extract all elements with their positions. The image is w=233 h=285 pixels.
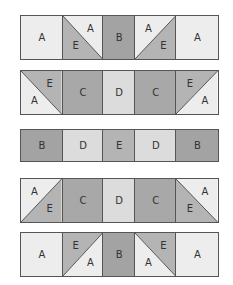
patch-B: B: [21, 130, 63, 161]
patch-label: C: [80, 196, 87, 206]
quilt-row-5: AEABEAA: [20, 232, 219, 277]
patch-label: D: [152, 141, 160, 151]
patch-A: A: [176, 16, 218, 59]
patch-label: C: [152, 88, 159, 98]
patch-label: E: [73, 41, 79, 51]
patch-D: D: [103, 179, 135, 222]
patch-label: D: [115, 88, 123, 98]
patch-A: A: [21, 16, 63, 59]
patch-label: E: [160, 41, 166, 51]
patch-label: B: [39, 141, 46, 151]
half-square-triangle-patch: AE: [63, 16, 104, 59]
half-square-triangle-patch: EA: [21, 71, 63, 114]
patch-label: A: [145, 24, 152, 34]
half-square-triangle-patch: AE: [176, 179, 218, 222]
patch-label: A: [31, 96, 38, 106]
patch-label: A: [202, 187, 209, 197]
patch-label: B: [116, 250, 123, 260]
patch-label: E: [160, 241, 166, 251]
patch-label: E: [187, 204, 193, 214]
half-square-triangle-patch: EA: [176, 71, 218, 114]
patch-label: C: [80, 88, 87, 98]
patch-C: C: [135, 179, 177, 222]
patch-label: D: [115, 196, 123, 206]
patch-label: B: [116, 33, 123, 43]
patch-B: B: [103, 233, 135, 276]
patch-B: B: [176, 130, 218, 161]
patch-label: A: [145, 258, 152, 268]
half-square-triangle-patch: EA: [63, 233, 104, 276]
patch-label: A: [87, 24, 94, 34]
patch-E: E: [103, 130, 135, 161]
patch-label: A: [194, 33, 201, 43]
patch-label: A: [39, 250, 46, 260]
patch-label: A: [194, 250, 201, 260]
patch-B: B: [103, 16, 135, 59]
quilt-row-1: AAEBAEA: [20, 15, 219, 60]
patch-C: C: [135, 71, 177, 114]
patch-A: A: [21, 233, 63, 276]
patch-label: D: [79, 141, 87, 151]
half-square-triangle-patch: EA: [135, 233, 177, 276]
quilt-row-2: EACDCEA: [20, 70, 219, 115]
patch-label: E: [46, 204, 52, 214]
quilt-row-4: AECDCAE: [20, 178, 219, 223]
patch-label: E: [46, 79, 52, 89]
patch-C: C: [63, 179, 104, 222]
patch-label: E: [116, 141, 122, 151]
patch-label: B: [194, 141, 201, 151]
patch-label: A: [31, 187, 38, 197]
patch-D: D: [135, 130, 177, 161]
half-square-triangle-patch: AE: [135, 16, 177, 59]
patch-label: C: [152, 196, 159, 206]
quilt-row-3: BDEDB: [20, 129, 219, 162]
half-square-triangle-patch: AE: [21, 179, 63, 222]
patch-label: A: [202, 96, 209, 106]
patch-label: E: [187, 79, 193, 89]
patch-D: D: [103, 71, 135, 114]
patch-A: A: [176, 233, 218, 276]
patch-label: A: [39, 33, 46, 43]
patch-D: D: [63, 130, 104, 161]
patch-label: E: [73, 241, 79, 251]
patch-C: C: [63, 71, 104, 114]
patch-label: A: [87, 258, 94, 268]
